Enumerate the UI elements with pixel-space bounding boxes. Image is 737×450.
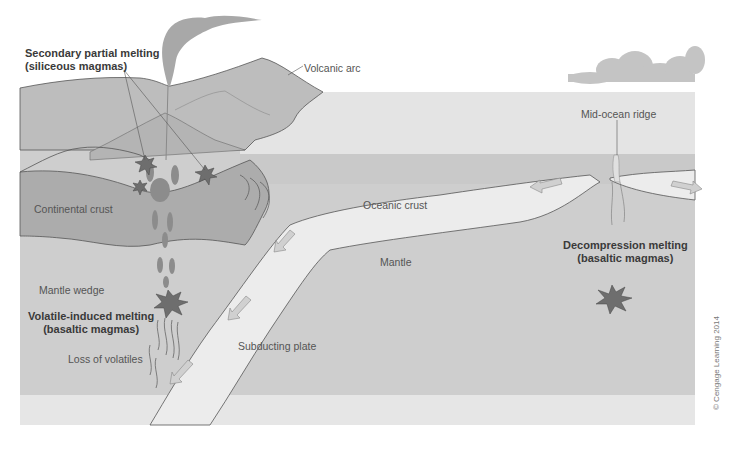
label-decompression-melting-line1: Decompression melting — [563, 239, 688, 252]
label-subducting-plate: Subducting plate — [238, 340, 316, 352]
copyright-notice: © Cengage Learning 2014 — [712, 316, 721, 410]
label-secondary-melting-line1: Secondary partial melting — [25, 47, 159, 60]
label-decompression-melting-line2: (basaltic magmas) — [563, 252, 688, 265]
label-continental-crust: Continental crust — [34, 203, 113, 215]
label-loss-of-volatiles: Loss of volatiles — [68, 353, 143, 365]
label-mantle: Mantle — [380, 256, 412, 268]
label-secondary-melting: Secondary partial melting (siliceous mag… — [25, 47, 159, 73]
label-secondary-melting-line2: (siliceous magmas) — [25, 60, 159, 73]
label-oceanic-crust: Oceanic crust — [363, 199, 427, 211]
label-volatile-melting-line1: Volatile-induced melting — [28, 310, 154, 323]
label-volatile-melting-line2: (basaltic magmas) — [28, 323, 154, 336]
label-mid-ocean-ridge: Mid-ocean ridge — [581, 108, 656, 120]
label-mantle-wedge: Mantle wedge — [39, 284, 104, 296]
label-volatile-melting: Volatile-induced melting (basaltic magma… — [28, 310, 154, 336]
label-volcanic-arc: Volcanic arc — [304, 62, 361, 74]
label-decompression-melting: Decompression melting (basaltic magmas) — [563, 239, 688, 265]
